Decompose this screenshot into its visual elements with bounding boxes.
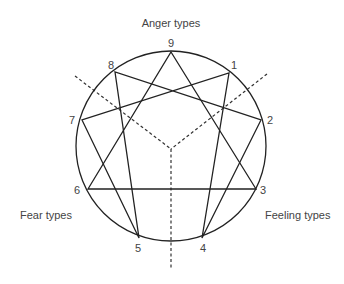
point-label-5: 5 bbox=[135, 242, 141, 254]
center-dividers bbox=[75, 74, 267, 268]
point-label-8: 8 bbox=[108, 59, 114, 71]
divider-line bbox=[75, 76, 171, 149]
fear-types-label: Fear types bbox=[20, 209, 72, 221]
point-label-7: 7 bbox=[69, 114, 75, 126]
point-label-2: 2 bbox=[267, 114, 273, 126]
point-label-6: 6 bbox=[74, 184, 80, 196]
point-label-1: 1 bbox=[231, 59, 237, 71]
enneagram-diagram: Anger types Fear types Feeling types 9 1… bbox=[0, 0, 344, 284]
feeling-types-label: Feeling types bbox=[265, 209, 331, 221]
point-label-4: 4 bbox=[200, 242, 206, 254]
anger-types-label: Anger types bbox=[142, 17, 201, 29]
point-label-3: 3 bbox=[260, 184, 266, 196]
point-label-9: 9 bbox=[168, 37, 174, 49]
